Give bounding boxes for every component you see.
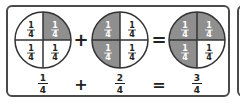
segment-num: 1: [105, 44, 111, 53]
fraction-3-numerator: 3: [194, 73, 200, 83]
segment-num: 1: [28, 44, 34, 53]
fraction-diagram: 1 4 1 4 1 4 1 4 + 1 4 1 4 1 4: [0, 0, 240, 103]
equals-operator: =: [151, 29, 166, 50]
segment-num: 1: [129, 21, 135, 30]
segment-den: 4: [206, 53, 212, 62]
segment-den: 4: [206, 30, 212, 39]
segment-den: 4: [129, 53, 135, 62]
segment-den: 4: [105, 53, 111, 62]
fraction-1-denominator: 4: [40, 85, 46, 95]
segment-den: 4: [52, 30, 58, 39]
segment-den: 4: [182, 30, 188, 39]
bottom-equals: =: [152, 75, 165, 94]
segment-num: 1: [105, 21, 111, 30]
circle-two-quarters: 1 4 1 4 1 4 1 4: [92, 12, 148, 68]
fraction-1-numerator: 1: [40, 73, 46, 83]
circle-three-quarters: 1 4 1 4 1 4 1 4: [169, 12, 225, 68]
bottom-equation: 1 4 + 2 4 = 3 4: [38, 73, 202, 95]
segment-num: 1: [182, 44, 188, 53]
segment-den: 4: [105, 30, 111, 39]
segment-num: 1: [206, 44, 212, 53]
bottom-plus: +: [74, 75, 87, 94]
segment-num: 1: [129, 44, 135, 53]
segment-num: 1: [52, 21, 58, 30]
segment-num: 1: [52, 44, 58, 53]
segment-den: 4: [129, 30, 135, 39]
segment-den: 4: [52, 53, 58, 62]
fraction-2-denominator: 4: [117, 85, 123, 95]
plus-operator: +: [73, 29, 88, 50]
segment-num: 1: [206, 21, 212, 30]
fraction-2-numerator: 2: [117, 73, 123, 83]
circle-one-quarter: 1 4 1 4 1 4 1 4: [15, 12, 71, 68]
segment-num: 1: [28, 21, 34, 30]
segment-den: 4: [28, 53, 34, 62]
segment-den: 4: [28, 30, 34, 39]
segment-den: 4: [182, 53, 188, 62]
segment-num: 1: [182, 21, 188, 30]
fraction-3-denominator: 4: [194, 85, 200, 95]
